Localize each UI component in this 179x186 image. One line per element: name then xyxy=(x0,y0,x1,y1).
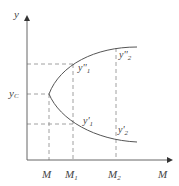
y-prime-2-label: y'2 xyxy=(117,124,129,137)
y-axis-label: y xyxy=(13,8,19,20)
m-tick-label: M xyxy=(41,168,52,180)
guide-lines xyxy=(27,48,116,160)
parabola-diagram: y M yC M M1 M2 y''1 y''2 y'1 y'2 xyxy=(0,0,179,186)
yc-label: yC xyxy=(8,87,19,100)
m2-tick-label: M2 xyxy=(107,168,121,182)
y-prime-1-label: y'1 xyxy=(82,115,93,128)
y-double-prime-1-label: y''1 xyxy=(77,62,90,75)
x-axis-label: M xyxy=(157,168,168,180)
m1-tick-label: M1 xyxy=(64,168,78,182)
diagram-canvas: y M yC M M1 M2 y''1 y''2 y'1 y'2 xyxy=(0,0,179,186)
y-double-prime-2-label: y''2 xyxy=(118,49,132,62)
